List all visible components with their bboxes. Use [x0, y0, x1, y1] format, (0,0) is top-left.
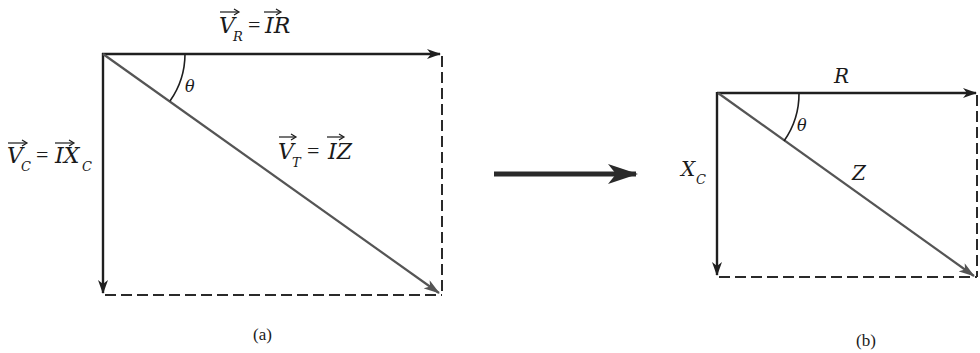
- svg-text:R: R: [232, 29, 243, 44]
- svg-text:C: C: [21, 159, 31, 174]
- svg-text:IZ: IZ: [327, 139, 353, 164]
- impedance-phasor-diagram: θ V R = IR V C = IX C V: [0, 0, 980, 353]
- caption-b: (b): [856, 331, 876, 350]
- diagram-a: θ V R = IR V C = IX C V: [7, 9, 442, 344]
- label-vc-eq-ixc: V C = IX C: [7, 140, 92, 174]
- svg-text:=: =: [307, 138, 319, 163]
- svg-text:=: =: [36, 142, 48, 167]
- label-xc: X C: [679, 157, 706, 187]
- angle-theta-label-b: θ: [797, 116, 807, 135]
- diagram-b: θ R X C Z (b): [679, 64, 977, 350]
- vector-vt: [103, 54, 439, 293]
- angle-arc: [170, 54, 185, 101]
- label-vt-eq-iz: V T = IZ: [278, 134, 353, 170]
- svg-text:X: X: [679, 157, 696, 181]
- svg-text:=: =: [248, 12, 260, 37]
- label-r: R: [833, 64, 849, 88]
- svg-text:IX: IX: [54, 143, 81, 168]
- angle-theta-label: θ: [185, 77, 195, 96]
- caption-a: (a): [253, 325, 272, 344]
- label-z: Z: [851, 161, 867, 185]
- vector-z: [718, 93, 974, 276]
- svg-text:IR: IR: [264, 13, 290, 38]
- svg-text:T: T: [292, 155, 302, 170]
- label-vr-eq-ir: V R = IR: [219, 9, 290, 44]
- svg-text:C: C: [696, 172, 706, 187]
- svg-text:C: C: [82, 159, 92, 174]
